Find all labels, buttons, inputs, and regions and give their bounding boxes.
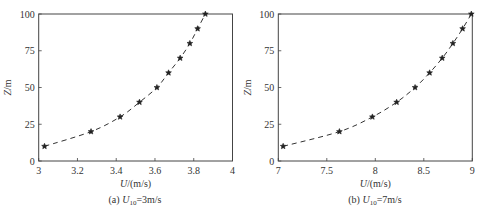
- y-tick-label: 100: [20, 9, 35, 20]
- x-tick-label: 3.2: [71, 165, 84, 176]
- chart-panel-a: 33.23.43.63.840255075100U/(m/s)Z/m(a) U1…: [2, 9, 235, 208]
- data-point-marker: [412, 85, 418, 90]
- figure: 33.23.43.63.840255075100U/(m/s)Z/m(a) U1…: [0, 0, 478, 210]
- data-point-marker: [468, 11, 474, 16]
- data-point-marker: [195, 26, 201, 31]
- x-tick-label: 3: [36, 165, 41, 176]
- panel-caption: (a) U10=3m/s: [109, 194, 162, 207]
- x-tick-label: 8.5: [418, 165, 431, 176]
- data-point-marker: [117, 114, 123, 119]
- data-point-marker: [166, 70, 172, 75]
- data-point-marker: [337, 129, 343, 134]
- x-tick-label: 3.6: [149, 165, 162, 176]
- y-axis-label: Z/m: [2, 79, 13, 95]
- profile-dashed-line: [45, 14, 206, 146]
- y-axis-label: Z/m: [242, 79, 253, 95]
- y-tick-label: 50: [25, 82, 35, 93]
- x-tick-label: 8: [373, 165, 378, 176]
- profile-dashed-line: [283, 14, 471, 146]
- data-point-marker: [42, 143, 48, 148]
- y-tick-label: 25: [25, 119, 35, 130]
- data-point-marker: [187, 40, 193, 45]
- x-tick-label: 4: [230, 165, 235, 176]
- x-tick-label: 3.8: [187, 165, 200, 176]
- y-tick-label: 0: [269, 156, 274, 167]
- x-tick-label: 9: [470, 165, 475, 176]
- data-point-marker: [177, 55, 183, 60]
- x-axis-label: U/(m/s): [360, 178, 391, 190]
- data-point-marker: [203, 11, 209, 16]
- y-tick-label: 50: [264, 82, 274, 93]
- data-point-marker: [460, 26, 466, 31]
- y-tick-label: 25: [264, 119, 274, 130]
- chart-panel-b: 77.588.590255075100U/(m/s)Z/m(b) U10=7m/…: [242, 9, 475, 208]
- plot-area-frame: [278, 14, 472, 161]
- y-tick-label: 100: [259, 9, 274, 20]
- y-tick-label: 75: [264, 45, 274, 56]
- y-tick-label: 0: [30, 156, 35, 167]
- data-point-marker: [280, 143, 286, 148]
- x-axis-label: U/(m/s): [120, 178, 151, 190]
- data-point-marker: [88, 129, 94, 134]
- x-tick-label: 3.4: [110, 165, 123, 176]
- data-point-marker: [370, 114, 376, 119]
- y-tick-label: 75: [25, 45, 35, 56]
- panel-caption: (b) U10=7m/s: [348, 194, 402, 207]
- x-tick-label: 7: [276, 165, 281, 176]
- plot-area-frame: [39, 14, 233, 161]
- data-point-marker: [154, 85, 160, 90]
- x-tick-label: 7.5: [321, 165, 334, 176]
